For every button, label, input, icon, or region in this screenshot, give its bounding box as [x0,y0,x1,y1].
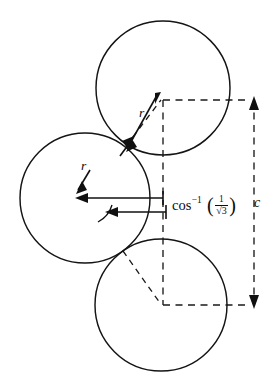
one-over-root-three-fraction: 1 √3 [215,195,228,217]
cos-inverse-exponent: −1 [192,196,202,206]
radius-label-left: r [81,159,86,173]
angle-formula-row: cos−1 ( 1 √3 ) [172,194,236,216]
horizontal-arrow-upper-head [75,193,88,203]
paren-open: ( [207,197,214,213]
dimension-arrow-head-top [249,96,259,110]
radius-arrow-left-head [76,181,87,194]
radicand-value: 3 [222,206,227,216]
radius-label-top: r [139,106,144,120]
fraction-denominator: √3 [215,206,228,217]
fraction-numerator: 1 [218,195,225,205]
cos-function-name: cos [172,198,191,213]
dimension-label-c: c [254,196,260,210]
top-circle [96,21,230,155]
diagram-canvas: r r cos−1 ( 1 √3 ) c [0,0,277,383]
dimension-arrow-head-bottom [249,295,259,309]
paren-close: ) [229,197,236,213]
geometry-figure [0,0,277,383]
dashed-center-line-bottom [123,251,160,303]
angle-formula-label: cos−1 ( 1 √3 ) [172,194,236,216]
